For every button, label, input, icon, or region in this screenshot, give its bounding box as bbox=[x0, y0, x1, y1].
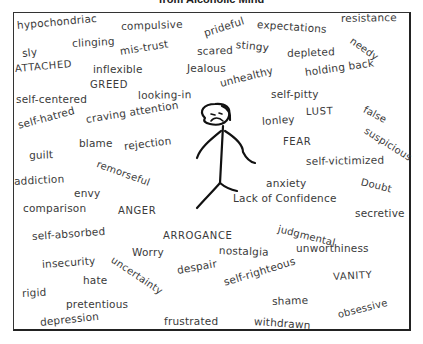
body-icon bbox=[220, 126, 223, 183]
sad-stick-figure bbox=[0, 0, 423, 344]
